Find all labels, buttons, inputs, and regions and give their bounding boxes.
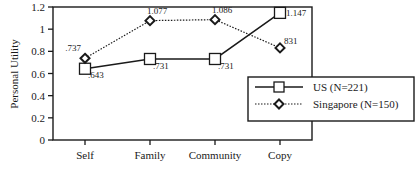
legend: US (N=221) Singapore (N=150) (248, 77, 414, 121)
data-label: 1.086 (212, 5, 233, 15)
y-tick-label: 1 (40, 23, 46, 35)
legend-label-singapore: Singapore (N=150) (313, 98, 399, 111)
data-label: 1.077 (147, 6, 168, 16)
diamond-marker-icon (146, 16, 155, 25)
x-category-label: Self (76, 149, 94, 161)
square-marker-icon (275, 7, 286, 18)
x-axis: SelfFamilyCommunityCopy (76, 140, 292, 161)
y-tick-label: 0.6 (31, 68, 45, 80)
y-tick-label: 1.2 (31, 1, 45, 13)
y-axis-title: Personal Utility (8, 39, 20, 109)
series-us: .643.731.7311.147 (80, 7, 307, 79)
diamond-marker-icon (211, 15, 220, 24)
y-tick-label: 0.8 (31, 45, 45, 57)
series-singapore: .7371.0771.086831 (65, 5, 297, 63)
data-label: 1.147 (286, 8, 307, 18)
y-axis: 00.20.40.60.811.2 (31, 1, 53, 146)
x-category-label: Family (134, 149, 166, 161)
y-tick-label: 0 (40, 134, 46, 146)
diamond-marker-icon (81, 54, 90, 63)
y-tick-label: 0.2 (31, 112, 45, 124)
y-tick-label: 0.4 (31, 90, 45, 102)
line-chart: Personal Utility 00.20.40.60.811.2 SelfF… (0, 0, 418, 172)
x-category-label: Community (189, 149, 242, 161)
legend-label-us: US (N=221) (313, 81, 368, 94)
data-label: .737 (65, 43, 81, 53)
data-label: 831 (284, 36, 298, 46)
data-label: .731 (218, 61, 234, 71)
data-label: .731 (153, 61, 169, 71)
x-category-label: Copy (268, 149, 292, 161)
data-label: .643 (88, 70, 104, 80)
square-marker-icon (274, 82, 284, 92)
